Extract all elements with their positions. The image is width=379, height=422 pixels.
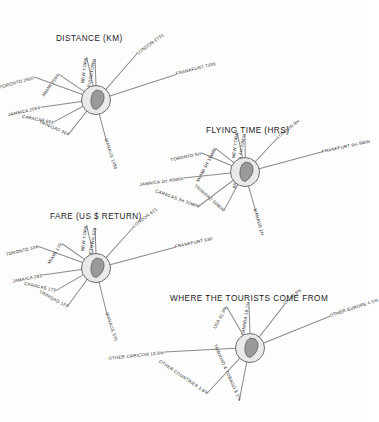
spoke-label-flying-time-8: CARACAS 2H 30MIN <box>154 189 199 210</box>
chart-title-distance: DISTANCE (KM) <box>56 34 123 43</box>
spoke-label-tourists-3: OTHER EUROPE 4.5% <box>329 298 379 318</box>
chart-title-fare: FARE (US $ RETURN) <box>50 212 142 221</box>
spoke-label-fare-2: NEW YORK <box>80 225 89 251</box>
spoke-label-tourists-5: OTHER COUNTRIES 3.6% <box>158 358 209 395</box>
spoke-label-tourists-0: USA 41.9% <box>212 305 228 329</box>
spoke-label-flying-time-6: MANAUS 2H <box>253 208 265 236</box>
barbados-island-icon <box>231 158 261 188</box>
spoke-label-flying-time-5: FRANKFURT 9H 5MIN <box>322 139 371 154</box>
barbados-island-icon <box>82 254 112 284</box>
barbados-island-icon <box>236 334 266 364</box>
hub-fare <box>81 253 111 283</box>
spoke-label-tourists-4: OTHER CARICOM 10.9% <box>108 350 164 361</box>
hub-distance <box>81 85 111 115</box>
spoke-label-flying-time-0: TORONTO 5H <box>170 151 201 162</box>
spoke-label-flying-time-9: JAMAICA 2H 45MIN <box>140 176 184 187</box>
spoke-label-distance-4: LONDON 6731 <box>135 32 164 55</box>
spoke-label-fare-0: TORONTO 334 <box>5 244 38 257</box>
hub-flying-time <box>230 157 260 187</box>
spoke-label-distance-0: TORONTO 3910 <box>0 75 35 90</box>
spoke-label-fare-5: FRANKFURT 630 <box>175 236 213 249</box>
spoke-label-distance-6: MANAUS 1480 <box>104 138 119 170</box>
spoke-label-distance-5: FRANKFURT 7336 <box>175 62 216 77</box>
spoke-label-fare-6: MANAUS 370 <box>105 312 119 342</box>
barbados-island-icon <box>82 86 112 116</box>
hub-tourists <box>235 333 265 363</box>
